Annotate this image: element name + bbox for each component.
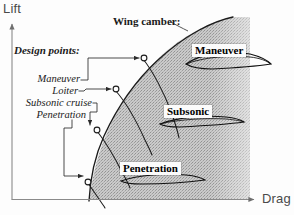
y-axis-label: Lift [3,2,21,15]
design-point-marker-subsonic-cruise [94,127,100,133]
leader-loiter [79,89,111,91]
x-axis-label: Drag [262,192,291,205]
design-point-label-loiter: Loiter [0,86,78,97]
drag-polar-figure: Lift Drag Design points: Wing camber: Ma… [0,0,294,215]
camber-region-label-subsonic: Subsonic [164,105,212,118]
leader-maneuver [81,58,139,80]
wing-camber-heading: Wing camber: [113,16,180,27]
leader-penetration [64,120,83,176]
design-point-label-maneuver: Maneuver [0,74,80,85]
design-point-label-subsonic-cruise: Subsonic cruise [0,98,92,109]
camber-region-label-penetration: Penetration [120,162,181,175]
design-point-label-penetration: Penetration [0,110,86,121]
camber-region-label-maneuver: Maneuver [192,44,246,57]
design-points-heading: Design points: [14,45,80,56]
design-point-marker-penetration [85,179,91,185]
design-point-marker-loiter [113,86,119,92]
design-point-marker-maneuver [141,55,147,61]
